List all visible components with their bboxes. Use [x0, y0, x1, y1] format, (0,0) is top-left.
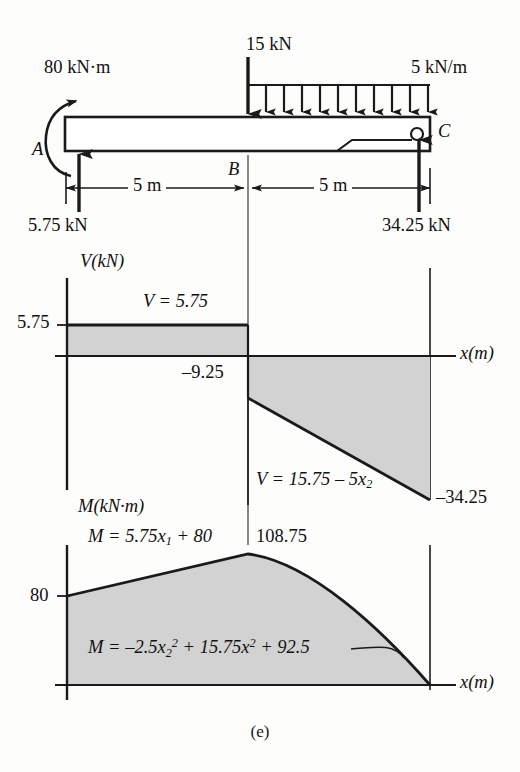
distributed-load-arrows: [266, 85, 428, 112]
shear-value-start: 5.75: [17, 313, 49, 332]
shear-eq-right-prefix: V = 15.75 – 5x: [256, 469, 366, 489]
moment-x-axis-text: x(m): [460, 672, 494, 692]
moment-equation-1: M = 5.75x1 + 80: [88, 527, 212, 548]
moment-value-peak: 108.75: [256, 527, 307, 546]
moment-diagram-group: [55, 545, 456, 700]
shear-moment-figure: 15 kN 5 kN/m 80 kN·m A B C 5 m 5 m 5.75 …: [0, 0, 520, 772]
moment-equation-2: M = –2.5x22 + 15.75x2 + 92.5: [88, 637, 310, 659]
shear-value-end: –34.25: [436, 488, 487, 507]
moment-eq1-prefix: M = 5.75x: [88, 526, 166, 546]
dimension-right-label: 5 m: [314, 176, 352, 195]
shear-y-axis-label: V(kN): [80, 252, 124, 271]
shear-value-drop: –9.25: [182, 363, 224, 382]
moment-x-axis-label: x(m): [460, 673, 494, 692]
shear-eq-right-sub: 2: [366, 477, 372, 491]
beam-body: [65, 117, 430, 151]
shear-y-axis-text: V(kN): [80, 251, 124, 271]
reaction-right-label: 34.25 kN: [382, 216, 451, 235]
label-point-c: C: [438, 122, 450, 141]
shear-equation-left: V = 5.75: [143, 292, 208, 311]
shear-equation-right: V = 15.75 – 5x2: [256, 470, 372, 491]
roller-pin-icon: [411, 128, 423, 140]
dimension-left-label: 5 m: [128, 176, 166, 195]
moment-y-axis-label: M(kN·m): [78, 497, 144, 516]
figure-caption: (e): [0, 722, 520, 742]
shear-x-axis-text: x(m): [460, 343, 494, 363]
moment-value-start: 80: [30, 586, 49, 605]
label-point-a: A: [32, 140, 43, 159]
moment-area: [67, 554, 430, 685]
shear-area-positive: [67, 325, 248, 356]
label-point-b: B: [228, 160, 239, 179]
shear-x-axis-label: x(m): [460, 344, 494, 363]
point-load-label: 15 kN: [246, 35, 292, 54]
moment-eq2-part3: + 92.5: [256, 637, 310, 657]
moment-eq1-suffix: + 80: [172, 526, 212, 546]
shear-diagram-group: [55, 278, 456, 500]
applied-moment-label: 80 kN·m: [44, 58, 110, 77]
reaction-left-label: 5.75 kN: [28, 216, 88, 235]
moment-eq2-part2: + 15.75x: [178, 637, 250, 657]
moment-y-axis-text: M(kN·m): [78, 496, 144, 516]
moment-eq2-part1: M = –2.5x: [88, 637, 166, 657]
distributed-load-label: 5 kN/m: [411, 58, 467, 77]
beam-group: [46, 57, 430, 212]
